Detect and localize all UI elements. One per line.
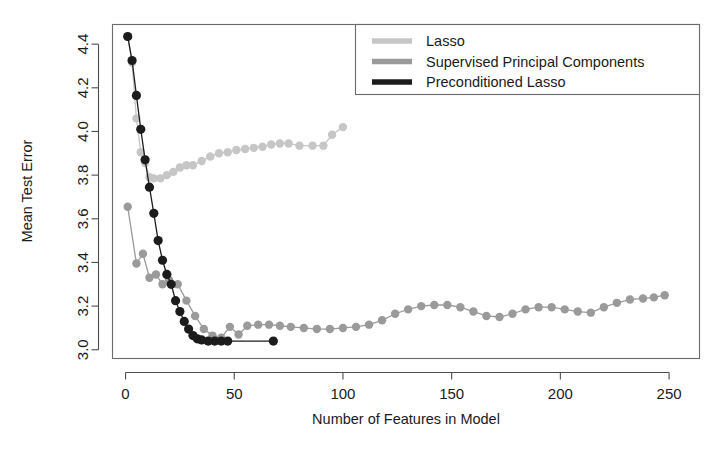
series-point [276, 322, 284, 330]
y-tick-label: 3.8 [74, 165, 91, 186]
series-point [158, 256, 167, 265]
series-point [154, 236, 163, 245]
series-point [326, 325, 334, 333]
series-point [223, 336, 232, 345]
series-point [206, 152, 214, 160]
series-point [224, 148, 232, 156]
series-point [365, 320, 373, 328]
series-point [284, 139, 292, 147]
series-point [241, 145, 249, 153]
series-point [626, 295, 634, 303]
series-point [456, 303, 464, 311]
series-point [167, 280, 176, 289]
series-point [127, 56, 136, 65]
series-point [661, 291, 669, 299]
x-tick-label: 250 [657, 385, 682, 402]
x-axis-title: Number of Features in Model [312, 411, 500, 427]
series-point [287, 323, 295, 331]
legend-label: Lasso [426, 33, 465, 49]
series-point [234, 330, 242, 338]
series-point [250, 144, 258, 152]
series-point [613, 299, 621, 307]
series-point [639, 294, 647, 302]
series-point [152, 270, 160, 278]
series-point [430, 301, 438, 309]
series-point [269, 336, 278, 345]
series-point [123, 32, 132, 41]
x-tick-label: 0 [121, 385, 129, 402]
series-point [547, 303, 555, 311]
y-tick-label: 3.0 [74, 339, 91, 360]
x-tick-label: 200 [548, 385, 573, 402]
series-point [200, 325, 208, 333]
series-point [265, 320, 273, 328]
series-point [258, 143, 266, 151]
series-point [600, 303, 608, 311]
series-point [574, 307, 582, 315]
series-point [300, 324, 308, 332]
series-point [313, 325, 321, 333]
series-point [378, 316, 386, 324]
series-point [232, 146, 240, 154]
x-tick-label: 150 [439, 385, 464, 402]
series-point [328, 131, 336, 139]
series-point [171, 296, 180, 305]
series-point [139, 250, 147, 258]
series-point [226, 323, 234, 331]
legend-label: Preconditioned Lasso [426, 74, 565, 90]
series-point [145, 183, 154, 192]
series-point [189, 161, 197, 169]
series-point [243, 322, 251, 330]
series-point [295, 141, 303, 149]
series-point [175, 307, 184, 316]
chart-figure: 050100150200250 3.03.23.43.63.84.04.24.4… [0, 0, 722, 452]
series-point [141, 155, 150, 164]
series-point [132, 91, 141, 100]
series-point [521, 305, 529, 313]
series-point [650, 293, 658, 301]
series-point [495, 313, 503, 321]
series-point [482, 312, 490, 320]
series-point [352, 323, 360, 331]
y-tick-label: 4.0 [74, 121, 91, 142]
series-point [182, 296, 190, 304]
series-point [561, 305, 569, 313]
chart-legend: LassoSupervised Principal ComponentsPrec… [356, 25, 700, 95]
y-tick-label: 4.2 [74, 77, 91, 98]
series-point [391, 310, 399, 318]
series-point [508, 310, 516, 318]
series-point [136, 125, 145, 134]
series-point [132, 259, 140, 267]
series-point [124, 203, 132, 211]
x-tick-label: 100 [330, 385, 355, 402]
series-point [215, 149, 223, 157]
y-axis-title: Mean Test Error [19, 139, 35, 242]
series-point [276, 139, 284, 147]
y-tick-label: 3.4 [74, 252, 91, 273]
mean-test-error-line-chart: 050100150200250 3.03.23.43.63.84.04.24.4… [0, 0, 722, 452]
series-point [319, 141, 327, 149]
series-point [197, 157, 205, 165]
series-point [267, 140, 275, 148]
series-point [404, 305, 412, 313]
series-point [339, 324, 347, 332]
series-point [443, 301, 451, 309]
legend-label: Supervised Principal Components [426, 54, 644, 70]
series-point [149, 209, 158, 218]
y-tick-label: 4.4 [74, 34, 91, 55]
series-point [587, 308, 595, 316]
series-point [254, 320, 262, 328]
series-point [469, 307, 477, 315]
series-point [534, 303, 542, 311]
series-point [191, 312, 199, 320]
y-tick-label: 3.6 [74, 208, 91, 229]
y-tick-label: 3.2 [74, 296, 91, 317]
x-tick-label: 50 [226, 385, 243, 402]
series-point [308, 141, 316, 149]
series-point [339, 123, 347, 131]
series-point [162, 270, 171, 279]
series-point [417, 302, 425, 310]
